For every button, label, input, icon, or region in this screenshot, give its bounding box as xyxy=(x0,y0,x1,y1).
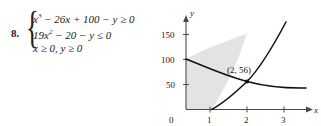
x-ticklabel-1: 1 xyxy=(207,115,212,125)
y-ticklabel-50: 50 xyxy=(166,80,176,90)
graph-panel: (2, 56) y x 0 1 2 3 50 100 150 xyxy=(160,0,321,126)
constraint-1-rest: − 26x + 100 − y ≥ 0 xyxy=(41,13,134,25)
problem-statement: 8. { x3 − 26x + 100 − y ≥ 0 19x2 − 20 − … xyxy=(0,0,160,126)
intersection-point-marker xyxy=(245,79,249,83)
constraint-1: x3 − 26x + 100 − y ≥ 0 xyxy=(33,8,134,24)
y-axis-arrow xyxy=(183,15,189,22)
x-ticklabel-3: 3 xyxy=(281,115,286,125)
figure-root: 8. { x3 − 26x + 100 − y ≥ 0 19x2 − 20 − … xyxy=(0,0,321,126)
graph-svg: (2, 56) y x 0 1 2 3 50 100 150 xyxy=(160,0,321,126)
x-ticklabel-2: 2 xyxy=(244,115,249,125)
intersection-point-label: (2, 56) xyxy=(227,65,251,75)
y-axis-label: y xyxy=(189,8,194,18)
x-axis-label: x xyxy=(313,105,318,115)
constraint-2-base: 19x xyxy=(33,29,49,41)
constraint-2: 19x2 − 20 − y ≤ 0 xyxy=(33,24,134,40)
constraint-2-rest: − 20 − y ≤ 0 xyxy=(52,29,111,41)
y-ticklabel-100: 100 xyxy=(161,55,175,65)
y-ticklabel-150: 150 xyxy=(161,30,175,40)
constraint-list: x3 − 26x + 100 − y ≥ 0 19x2 − 20 − y ≤ 0… xyxy=(33,8,134,56)
x-axis-arrow xyxy=(306,107,313,113)
constraint-3: x ≥ 0, y ≥ 0 xyxy=(33,40,134,56)
problem-number: 8. xyxy=(11,27,19,39)
x-ticklabel-0: 0 xyxy=(169,115,174,125)
